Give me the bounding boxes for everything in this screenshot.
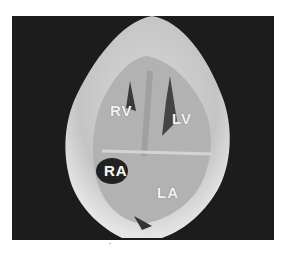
- label-right-atrium: RA: [104, 162, 128, 179]
- heart-photograph: RV LV RA LA: [12, 16, 274, 240]
- scan-artifact: [109, 243, 111, 244]
- label-left-ventricle: LV: [172, 110, 192, 127]
- heart-specimen-illustration: [12, 16, 274, 240]
- label-right-ventricle: RV: [110, 102, 133, 119]
- label-left-atrium: LA: [157, 184, 179, 201]
